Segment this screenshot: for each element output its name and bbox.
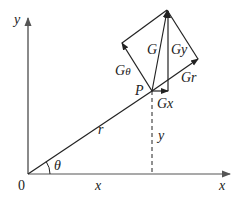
G-label: G <box>147 42 157 57</box>
theta-label: θ <box>54 158 61 173</box>
origin-label: 0 <box>18 178 25 193</box>
Gy-label: Gy <box>171 42 188 57</box>
theta-arc <box>46 162 50 174</box>
Gx-label: Gx <box>157 96 174 111</box>
y-segment-label: y <box>156 128 165 143</box>
parallelogram-edge-left <box>122 10 167 43</box>
Gtheta-label: Gθ <box>115 63 131 78</box>
x-axis-label: x <box>218 178 226 193</box>
y-axis-label: y <box>12 12 21 27</box>
point-P-label: P <box>134 83 144 98</box>
Gr-label: Gr <box>181 70 197 85</box>
polar-force-diagram: y x 0 x y r θ P G Gy Gr Gx Gθ <box>0 0 245 198</box>
x-segment-label: x <box>94 178 102 193</box>
radius-line <box>28 91 152 174</box>
r-label: r <box>98 122 104 137</box>
